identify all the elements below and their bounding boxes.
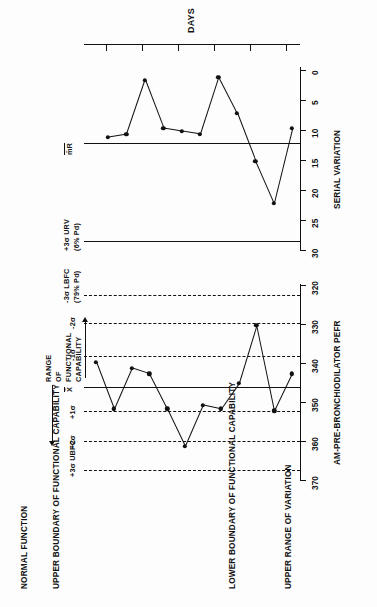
control-line-minus3-lbfc: [84, 295, 300, 296]
control-line-plus3-ubfc: [84, 470, 300, 471]
pefr-ticklabel-340: 340: [310, 359, 320, 373]
pefr-tick-360: [301, 441, 306, 442]
moving-range-point: [124, 132, 128, 136]
pefr-axis-title: AM-PRE-BRONCHIODILATOR PEFR: [333, 320, 342, 465]
individuals-segment: [239, 325, 258, 384]
sv-tick-20: [301, 190, 306, 191]
sv-tick-0: [301, 70, 306, 71]
individuals-point: [272, 409, 276, 413]
days-tick-4: [214, 45, 215, 51]
moving-range-point: [198, 132, 202, 136]
days-axis-title: DAYS: [186, 8, 196, 33]
sv-tick-30: [301, 250, 306, 251]
pefr-ticklabel-330: 330: [310, 320, 320, 334]
individuals-point: [201, 403, 205, 407]
moving-range-segment: [126, 80, 145, 134]
individuals-point: [254, 323, 258, 327]
moving-range-point: [106, 135, 110, 139]
serial-variation-axis-title: SERIAL VARIATION: [333, 130, 342, 209]
figure-page: NORMAL FUNCTION UPPER BOUNDARY OF FUNCTI…: [0, 0, 377, 607]
sv-ticklabel-0: 0: [310, 70, 320, 75]
sv-ticklabel-15: 15: [310, 159, 320, 168]
pefr-tick-330: [301, 324, 306, 325]
serial-variation-value-axis: [300, 67, 301, 251]
sv-tick-25: [301, 220, 306, 221]
individuals-point: [129, 366, 133, 370]
control-line-xbar: [84, 387, 300, 388]
individuals-chart-panel: 370 360 350 340 330 320 AM-PRE-BRONCHIOD…: [0, 267, 377, 607]
sv-tick-15: [301, 160, 306, 161]
control-line-mrbar: [84, 143, 300, 144]
pefr-ticklabel-370: 370: [310, 476, 320, 490]
moving-range-segment: [274, 128, 293, 203]
sv-ticklabel-25: 25: [310, 219, 320, 228]
pefr-ticklabel-360: 360: [310, 437, 320, 451]
days-tick-5: [250, 45, 251, 51]
moving-range-point: [290, 126, 294, 130]
moving-range-point: [271, 201, 275, 205]
pefr-ticklabel-320: 320: [310, 281, 320, 295]
sv-tick-10: [301, 130, 306, 131]
moving-range-segment: [218, 77, 237, 113]
moving-range-point: [179, 129, 183, 133]
control-line-plus1: [84, 411, 300, 412]
days-tick-6: [286, 45, 287, 51]
sv-ticklabel-5: 5: [310, 100, 320, 105]
control-line-minus1: [84, 356, 300, 357]
pefr-tick-350: [301, 402, 306, 403]
days-axis: [84, 44, 300, 45]
individuals-segment: [114, 368, 133, 409]
days-tick-2: [142, 45, 143, 51]
days-tick-1: [106, 45, 107, 51]
pefr-tick-320: [301, 285, 306, 286]
sv-ticklabel-10: 10: [310, 129, 320, 138]
individuals-point: [183, 444, 187, 448]
days-tick-3: [178, 45, 179, 51]
sv-tick-5: [301, 100, 306, 101]
pefr-value-axis: [300, 284, 301, 481]
pefr-tick-340: [301, 363, 306, 364]
individuals-segment: [150, 374, 169, 410]
control-line-urv: [84, 241, 300, 242]
sv-ticklabel-20: 20: [310, 189, 320, 198]
moving-range-chart-panel: 30 25 20 15 10 5 0 SERIAL VARIATION DAYS: [0, 0, 377, 267]
moving-range-segment: [145, 80, 164, 128]
individuals-point: [290, 372, 294, 376]
control-line-plus2: [84, 441, 300, 442]
individuals-point: [236, 381, 240, 385]
sv-ticklabel-30: 30: [310, 249, 320, 258]
moving-range-segment: [255, 161, 274, 203]
individuals-segment: [96, 362, 115, 409]
moving-range-point: [161, 126, 165, 130]
moving-range-segment: [237, 113, 256, 161]
pefr-ticklabel-350: 350: [310, 398, 320, 412]
individuals-segment: [256, 325, 275, 411]
control-line-minus2: [84, 323, 300, 324]
moving-range-segment: [200, 77, 219, 134]
individuals-segment: [274, 374, 293, 412]
rotated-figure-canvas: NORMAL FUNCTION UPPER BOUNDARY OF FUNCTI…: [0, 0, 377, 607]
pefr-tick-370: [301, 480, 306, 481]
